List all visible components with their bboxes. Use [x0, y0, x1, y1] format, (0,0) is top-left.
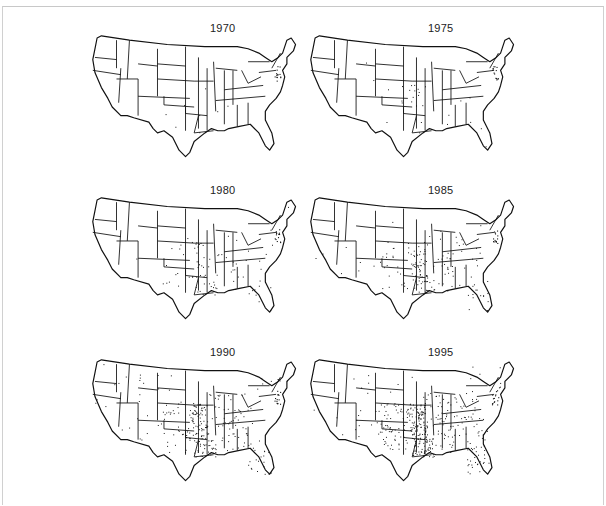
us-map [300, 180, 520, 330]
panel-year-label: 1980 [210, 184, 235, 196]
us-map [82, 18, 302, 168]
panel-year-label: 1975 [428, 22, 453, 34]
map-panel-1970: 1970 [82, 18, 302, 168]
map-panel-1975: 1975 [300, 18, 520, 168]
map-panel-1990: 1990 [82, 342, 302, 492]
map-panel-1980: 1980 [82, 180, 302, 330]
us-map [82, 180, 302, 330]
us-map [82, 342, 302, 492]
map-panel-1985: 1985 [300, 180, 520, 330]
map-panel-1995: 1995 [300, 342, 520, 492]
us-map [300, 342, 520, 492]
panel-year-label: 1985 [428, 184, 453, 196]
panel-year-label: 1970 [210, 22, 235, 34]
panel-year-label: 1990 [210, 346, 235, 358]
us-map [300, 18, 520, 168]
panel-year-label: 1995 [428, 346, 453, 358]
